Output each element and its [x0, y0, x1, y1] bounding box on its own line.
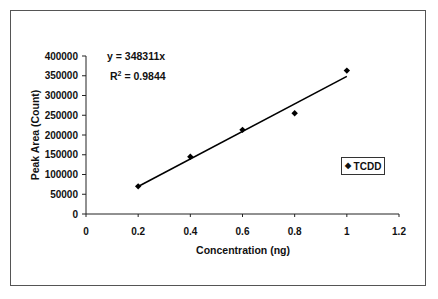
- y-tick-label: 150000: [45, 149, 79, 160]
- y-tick-label: 200000: [45, 130, 79, 141]
- y-tick-label: 100000: [45, 169, 79, 180]
- chart-plot: 0500001000001500002000002500003000003500…: [0, 0, 438, 299]
- y-tick-label: 300000: [45, 90, 79, 101]
- x-tick-label: 1: [344, 226, 350, 237]
- x-tick-label: 0: [83, 226, 89, 237]
- diamond-marker-icon: ◆: [345, 162, 351, 170]
- r-squared-label: R2 = 0.9844: [110, 70, 166, 82]
- y-axis: 0500001000001500002000002500003000003500…: [45, 51, 86, 220]
- x-tick-label: 1.2: [392, 226, 406, 237]
- x-tick-label: 0.6: [236, 226, 250, 237]
- data-point-diamond: [344, 67, 350, 73]
- data-point-diamond: [135, 183, 141, 189]
- data-point-diamond: [187, 154, 193, 160]
- y-tick-label: 0: [72, 209, 78, 220]
- y-tick-label: 350000: [45, 70, 79, 81]
- x-tick-label: 0.4: [183, 226, 197, 237]
- y-tick-label: 400000: [45, 51, 79, 62]
- x-tick-label: 0.2: [131, 226, 145, 237]
- data-point-diamond: [291, 110, 297, 116]
- y-tick-label: 250000: [45, 110, 79, 121]
- legend-label: TCDD: [354, 161, 382, 172]
- trendline-equation: y = 348311x: [107, 50, 165, 62]
- legend: ◆ TCDD: [341, 157, 385, 175]
- x-tick-label: 0.8: [288, 226, 302, 237]
- x-axis: 00.20.40.60.811.2: [83, 214, 406, 237]
- x-axis-title: Concentration (ng): [196, 244, 290, 256]
- y-tick-label: 50000: [50, 189, 78, 200]
- y-axis-title: Peak Area (Count): [29, 90, 41, 181]
